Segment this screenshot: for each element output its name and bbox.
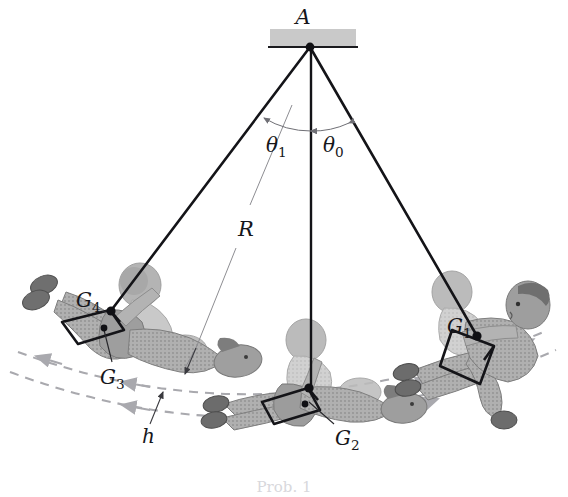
label-g2-subscript: 2 [351, 437, 360, 453]
label-g3-subscript: 3 [116, 376, 125, 392]
figure-caption: Prob. 1 [257, 478, 312, 496]
support-assembly [268, 29, 358, 51]
label-g4: G4 [76, 288, 101, 315]
cm-dot-g1 [472, 331, 481, 340]
swing-pendulum-diagram: A θ0 θ1 R h G1 G2 G3 G4 Prob. 1 [0, 0, 568, 497]
rope-right [310, 47, 477, 336]
cm-dot-g2-lower [302, 401, 309, 408]
h-arrow-up [150, 392, 163, 424]
label-radius-R: R [237, 217, 254, 241]
label-g4-subscript: 4 [92, 299, 101, 315]
label-height-h: h [142, 424, 155, 448]
label-theta1-subscript: 1 [278, 144, 287, 160]
label-theta1-symbol: θ [266, 133, 278, 157]
label-pivot-A: A [293, 5, 310, 29]
label-g3: G3 [100, 365, 125, 392]
label-theta0: θ0 [323, 133, 344, 160]
rope-left [110, 47, 310, 312]
label-theta1: θ1 [266, 133, 287, 160]
figure-root: A θ0 θ1 R h G1 G2 G3 G4 Prob. 1 [0, 0, 568, 497]
cm-dot-g3 [101, 325, 108, 332]
angle-arcs [264, 118, 349, 131]
label-g1-symbol: G [447, 314, 463, 338]
label-theta0-subscript: 0 [335, 144, 344, 160]
cm-dot-g2 [304, 383, 313, 392]
pivot-point [306, 43, 315, 52]
radius-line-lower [196, 248, 236, 348]
cm-dot-g4 [106, 306, 115, 315]
label-g4-symbol: G [76, 288, 92, 312]
label-g2-symbol: G [335, 426, 351, 450]
theta0-arc [311, 123, 349, 131]
theta1-arc [264, 118, 311, 131]
label-theta0-symbol: θ [323, 133, 335, 157]
label-g2: G2 [335, 426, 360, 453]
label-g1-subscript: 1 [463, 325, 472, 341]
label-g3-symbol: G [100, 365, 116, 389]
